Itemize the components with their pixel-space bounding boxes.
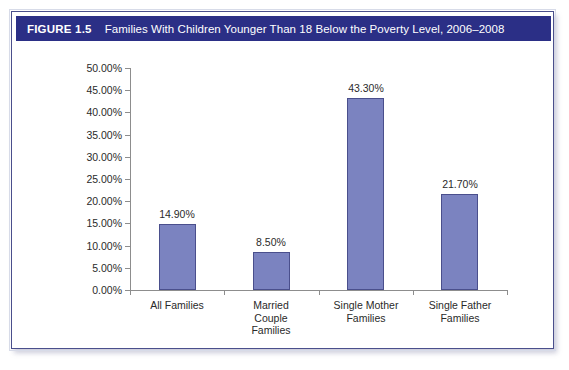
y-axis-line — [130, 68, 131, 290]
x-axis-tick — [413, 290, 414, 295]
bar-value-label: 43.30% — [326, 83, 406, 94]
x-axis-tick — [224, 290, 225, 295]
y-axis-tick — [125, 112, 130, 113]
x-axis-tick — [507, 290, 508, 295]
x-axis-tick — [319, 290, 320, 295]
y-axis-tick — [125, 157, 130, 158]
y-axis-tick-label: 5.00% — [64, 263, 122, 274]
y-axis-tick — [125, 246, 130, 247]
y-axis-tick-label: 10.00% — [64, 241, 122, 252]
bar-chart: 50.00%45.00%40.00%35.00%30.00%25.00%20.0… — [16, 45, 551, 345]
x-axis-category-label: Single Mother Families — [319, 299, 413, 324]
y-axis-tick-label: 20.00% — [64, 196, 122, 207]
bar — [253, 252, 290, 290]
y-axis-tick-label: 40.00% — [64, 107, 122, 118]
y-axis-tick-label: 35.00% — [64, 130, 122, 141]
y-axis-tick — [125, 268, 130, 269]
y-axis-tick — [125, 135, 130, 136]
y-axis-tick-label: 15.00% — [64, 218, 122, 229]
x-axis-tick — [130, 290, 131, 295]
y-axis-tick — [125, 90, 130, 91]
bar — [347, 98, 384, 290]
y-axis-tick — [125, 201, 130, 202]
figure-title-label: Families With Children Younger Than 18 B… — [92, 23, 505, 35]
bar-value-label: 14.90% — [137, 209, 217, 220]
y-axis-tick-label: 25.00% — [64, 174, 122, 185]
y-axis-tick — [125, 223, 130, 224]
bar-value-label: 8.50% — [231, 237, 311, 248]
x-axis-category-label: Single Father Families — [413, 299, 507, 324]
bar — [441, 194, 478, 290]
y-axis-tick-label: 50.00% — [64, 63, 122, 74]
figure-frame: FIGURE 1.5 Families With Children Younge… — [11, 11, 554, 349]
figure-title-bar: FIGURE 1.5 Families With Children Younge… — [16, 16, 551, 41]
y-axis-tick-label: 30.00% — [64, 152, 122, 163]
x-axis-category-label: All Families — [130, 299, 224, 312]
figure-number-label: FIGURE 1.5 — [16, 23, 92, 35]
y-axis-tick-label: 0.00% — [64, 285, 122, 296]
bar — [159, 224, 196, 290]
y-axis-tick — [125, 68, 130, 69]
y-axis-tick-label: 45.00% — [64, 85, 122, 96]
x-axis-category-label: Married Couple Families — [224, 299, 318, 337]
bar-value-label: 21.70% — [420, 179, 500, 190]
y-axis-tick — [125, 179, 130, 180]
